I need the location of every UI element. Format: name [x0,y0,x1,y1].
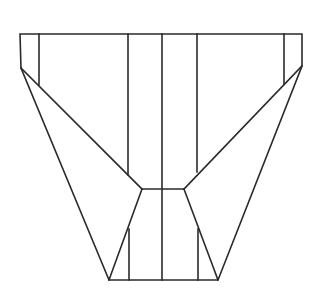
diagram-canvas [0,0,314,307]
left-lower-diagonal [109,189,142,280]
outer-outline [20,34,302,280]
fold-lines [21,34,302,280]
right-fold-diagonal [184,66,302,189]
right-lower-diagonal [184,189,218,280]
folded-paper-diagram [0,0,314,307]
left-fold-diagonal [21,68,142,189]
